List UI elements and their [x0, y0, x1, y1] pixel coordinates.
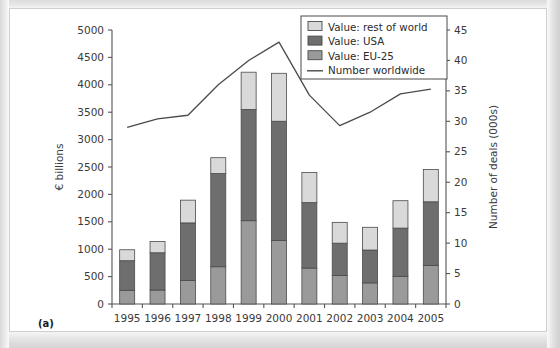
bar-stack — [272, 73, 287, 304]
panel-label: (a) — [38, 318, 54, 329]
bar-segment — [393, 276, 408, 304]
right-axis-title: Number of deals (000s) — [487, 105, 499, 229]
bar-segment — [120, 261, 135, 291]
left-axis-tick-label: 2500 — [77, 161, 104, 173]
bar-segment — [423, 265, 438, 304]
bar-segment — [423, 202, 438, 266]
bar-segment — [241, 109, 256, 220]
left-axis-tick-label: 4000 — [77, 78, 104, 90]
bar-stack — [180, 200, 195, 304]
bar-stack — [150, 242, 165, 304]
bar-segment — [180, 280, 195, 304]
bar-segment — [302, 172, 317, 202]
bar-segment — [241, 221, 256, 304]
right-axis-tick-label: 40 — [454, 54, 467, 66]
bar-segment — [363, 250, 378, 283]
legend-item-label: Number worldwide — [328, 64, 425, 76]
legend-swatch-icon — [308, 22, 322, 31]
right-axis-tick-label: 20 — [454, 176, 467, 188]
right-axis-tick-label: 35 — [454, 84, 467, 96]
left-axis-tick-label: 500 — [84, 270, 104, 282]
bar-segment — [120, 250, 135, 261]
chart-canvas: 0500100015002000250030003500400045005000… — [0, 0, 559, 348]
left-axis-tick-label: 5000 — [77, 24, 104, 36]
bar-segment — [211, 174, 226, 267]
right-axis-tick-label: 5 — [454, 267, 461, 279]
bar-segment — [180, 200, 195, 223]
bar-segment — [272, 121, 287, 240]
bar-segment — [211, 158, 226, 174]
bar-segment — [272, 240, 287, 304]
left-axis-tick-label: 1500 — [77, 215, 104, 227]
x-axis-tick-label: 1996 — [144, 312, 171, 324]
bar-segment — [363, 283, 378, 304]
left-y-axis: 0500100015002000250030003500400045005000… — [53, 24, 112, 310]
bar-segment — [272, 73, 287, 121]
bar-stack — [302, 172, 317, 304]
legend-swatch-icon — [308, 51, 322, 60]
x-axis-tick-label: 1998 — [205, 312, 232, 324]
x-axis-tick-label: 2000 — [266, 312, 293, 324]
bar-segment — [393, 228, 408, 276]
bar-segment — [332, 276, 347, 304]
x-axis-tick-label: 1999 — [235, 312, 262, 324]
x-axis-tick-label: 2005 — [417, 312, 444, 324]
bar-stack — [120, 250, 135, 304]
bar-stack — [241, 72, 256, 304]
figure-page: 0500100015002000250030003500400045005000… — [0, 0, 559, 348]
legend-item-label: Value: rest of world — [328, 21, 428, 33]
left-axis-tick-label: 3500 — [77, 106, 104, 118]
bar-segment — [120, 290, 135, 304]
left-axis-tick-label: 4500 — [77, 51, 104, 63]
bar-segment — [332, 243, 347, 275]
bar-segment — [150, 253, 165, 290]
left-axis-tick-label: 1000 — [77, 243, 104, 255]
chart-legend: Value: rest of worldValue: USAValue: EU-… — [301, 16, 447, 79]
right-axis-tick-label: 0 — [454, 298, 461, 310]
bar-segment — [302, 203, 317, 268]
bar-segment — [150, 290, 165, 304]
x-axis-tick-label: 2004 — [387, 312, 414, 324]
bar-segment — [180, 223, 195, 281]
left-axis-tick-label: 2000 — [77, 188, 104, 200]
bar-segment — [332, 222, 347, 243]
x-axis-tick-label: 2002 — [326, 312, 353, 324]
bar-stack — [332, 222, 347, 304]
bar-series-group — [120, 72, 439, 304]
bar-segment — [241, 72, 256, 109]
x-axis-tick-label: 2001 — [296, 312, 323, 324]
legend-item-label: Value: USA — [328, 35, 384, 47]
right-axis-tick-label: 15 — [454, 206, 467, 218]
legend-swatch-icon — [308, 36, 322, 45]
legend-item[interactable]: Value: EU-25 — [308, 50, 394, 62]
bar-stack — [423, 169, 438, 304]
x-axis-tick-label: 1997 — [175, 312, 202, 324]
x-axis-tick-label: 1995 — [114, 312, 141, 324]
bar-stack — [211, 158, 226, 304]
bar-segment — [423, 169, 438, 201]
left-axis-tick-label: 0 — [97, 298, 104, 310]
bar-stack — [393, 201, 408, 304]
bar-segment — [211, 267, 226, 304]
right-axis-tick-label: 30 — [454, 115, 467, 127]
x-axis: 1995199619971998199920002001200220032004… — [112, 304, 446, 324]
legend-item[interactable]: Value: USA — [308, 35, 384, 47]
legend-item-label: Value: EU-25 — [328, 50, 394, 62]
right-axis-tick-label: 25 — [454, 145, 467, 157]
bar-segment — [150, 242, 165, 253]
x-axis-tick-label: 2003 — [357, 312, 384, 324]
right-axis-tick-label: 10 — [454, 237, 467, 249]
right-y-axis: 051015202530354045Number of deals (000s) — [446, 24, 499, 310]
bar-segment — [393, 201, 408, 228]
bar-segment — [363, 227, 378, 250]
left-axis-title: € billions — [53, 144, 65, 191]
bar-segment — [302, 268, 317, 304]
right-axis-tick-label: 45 — [454, 24, 467, 36]
left-axis-tick-label: 3000 — [77, 133, 104, 145]
bar-stack — [363, 227, 378, 304]
